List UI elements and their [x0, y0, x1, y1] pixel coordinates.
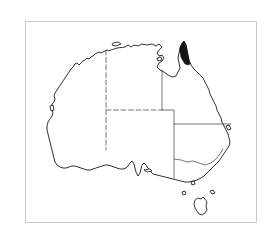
kangaroo-island	[144, 169, 152, 172]
melville-island	[112, 42, 121, 46]
king-island	[182, 191, 186, 195]
groote-eylandt	[157, 57, 162, 61]
figure-root	[0, 0, 274, 244]
australia-map-svg	[26, 22, 258, 224]
fraser-island	[226, 125, 231, 130]
flinders-island	[210, 190, 215, 194]
dirk-hartog-island	[50, 105, 54, 111]
australia-mainland-coastline	[47, 41, 230, 182]
wilsons-promontory-islet	[191, 181, 195, 185]
tasmania-island	[194, 197, 207, 215]
map-frame	[25, 21, 257, 223]
